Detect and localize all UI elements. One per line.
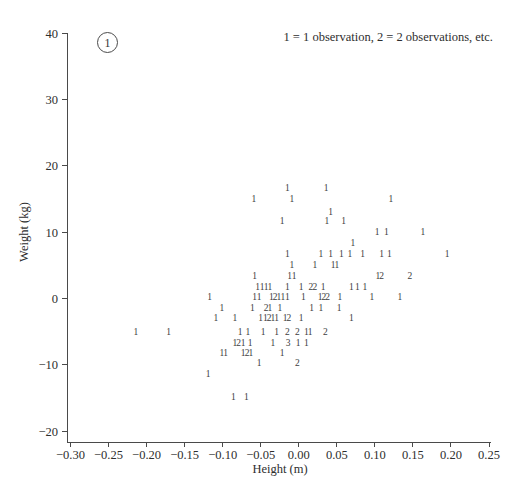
data-point: 1 [369,292,374,302]
data-point: 1 [134,327,139,337]
data-point: 1 [220,303,225,313]
x-tick-label: 0.15 [402,448,424,462]
data-point: 1 [248,338,253,348]
y-tick-label: 10 [46,226,59,240]
data-point: 1 [387,249,392,259]
data-point: 1 [337,292,342,302]
data-point: 1 [318,249,323,259]
data-point: 1 [301,292,306,302]
data-point: 1 [355,282,360,292]
data-point: 1 [257,358,262,368]
scatter-plot-figure: 403020100−10−20−0.30−0.25−0.20−0.15−0.10… [0,0,521,496]
data-point: 1 [274,327,279,337]
data-point: 1 [223,348,228,358]
data-point: 2 [325,292,330,302]
data-point: 1 [261,327,266,337]
data-point: 1 [250,303,255,313]
data-point: 1 [252,194,257,204]
data-point: 1 [398,292,403,302]
data-point: 2 [312,282,317,292]
x-tick-label: 0.20 [440,448,462,462]
data-point: 1 [334,260,339,270]
data-point: 1 [285,249,290,259]
data-point: 1 [349,282,354,292]
plot-canvas: 403020100−10−20−0.30−0.25−0.20−0.15−0.10… [0,0,521,496]
data-point: 1 [244,392,249,402]
data-point: 1 [388,194,393,204]
data-point: 1 [232,313,237,323]
data-point: 1 [206,369,211,379]
x-tick-label: −0.30 [56,448,85,462]
data-point: 2 [379,271,384,281]
data-point: 1 [231,392,236,402]
data-point: 2 [407,271,412,281]
y-tick-label: 40 [46,27,59,41]
data-point: 1 [166,327,171,337]
data-point: 1 [445,249,450,259]
data-point: 1 [304,338,309,348]
data-point: 1 [274,313,279,323]
data-point: 1 [339,249,344,259]
circled-annotation-label: 1 [105,37,111,49]
data-point: 1 [341,216,346,226]
x-tick-label: −0.10 [208,448,237,462]
data-point: 1 [248,348,253,358]
y-axis-title: Weight (kg) [17,202,32,262]
x-tick-label: 0.05 [326,448,348,462]
data-point: 1 [363,282,368,292]
y-tick-label: 30 [46,93,59,107]
data-point: 2 [295,358,300,368]
data-point: 1 [292,271,297,281]
x-tick-label: −0.15 [170,448,199,462]
data-point: 1 [321,282,326,292]
y-tick-label: −10 [38,358,58,372]
data-point: 1 [296,338,301,348]
data-point: 1 [290,194,295,204]
x-tick-label: 0.25 [478,448,500,462]
data-point: 1 [420,227,425,237]
data-point: 1 [360,249,365,259]
data-point: 1 [325,216,330,226]
data-point: 1 [277,303,282,313]
data-point: 1 [384,227,389,237]
data-point: 1 [285,183,290,193]
data-point: 2 [287,313,292,323]
data-point: 1 [241,338,246,348]
y-tick-label: 0 [52,292,58,306]
data-point: 1 [280,216,285,226]
x-tick-label: −0.25 [94,448,123,462]
data-point: 1 [280,348,285,358]
data-point: 1 [299,282,304,292]
data-point: 1 [257,292,262,302]
y-tick-label: −20 [38,425,58,439]
data-point: 1 [285,292,290,302]
data-point: 2 [323,327,328,337]
data-point: 1 [312,260,317,270]
data-point: 1 [328,249,333,259]
data-point: 1 [309,303,314,313]
data-point: 1 [349,313,354,323]
x-tick-label: −0.20 [132,448,161,462]
data-point: 2 [285,327,290,337]
x-tick-label: −0.05 [246,448,275,462]
data-point: 1 [350,238,355,248]
data-point: 1 [290,260,295,270]
data-point: 1 [252,271,257,281]
data-point: 1 [318,303,323,313]
data-point: 1 [285,282,290,292]
data-point: 1 [337,303,342,313]
data-point: 1 [267,282,272,292]
data-point: 1 [213,313,218,323]
data-point: 1 [324,183,329,193]
data-point: 1 [245,327,250,337]
data-point: 1 [347,249,352,259]
data-point: 1 [271,338,276,348]
x-axis-title: Height (m) [252,462,307,477]
data-point: 1 [308,327,313,337]
data-point: 2 [295,327,300,337]
data-point: 1 [267,303,272,313]
data-point: 1 [238,327,243,337]
data-point: 1 [207,292,212,302]
data-point: 1 [299,313,304,323]
legend-note: 1 = 1 observation, 2 = 2 observations, e… [283,30,493,45]
